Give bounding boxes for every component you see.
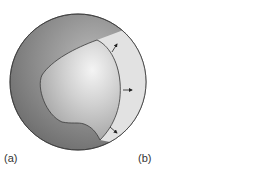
- panel-a-label: (a): [4, 152, 17, 164]
- panel-b-label: (b): [138, 152, 151, 164]
- diagram-figure: [0, 0, 261, 179]
- panel-a-sphere: [10, 14, 150, 150]
